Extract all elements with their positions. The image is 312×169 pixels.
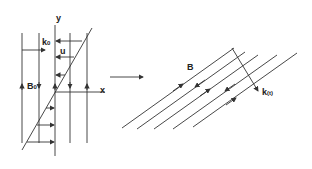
shear-flow-diagram: y x k0 u B0 B k(t) [0, 0, 312, 169]
b-label: B [187, 63, 194, 72]
x-axis-label: x [100, 86, 105, 95]
k0-label: k0 [42, 38, 50, 47]
velocity-label: u [60, 47, 66, 56]
diagram-graphics [0, 0, 312, 169]
kt-label: k(t) [262, 88, 273, 97]
b0-label: B0 [27, 82, 37, 91]
y-axis-label: y [56, 14, 61, 23]
